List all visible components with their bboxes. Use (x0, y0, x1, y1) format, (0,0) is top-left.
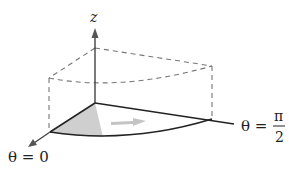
theta-zero-arrow-icon (28, 139, 37, 147)
sweep-arrow-icon (111, 118, 146, 126)
theta-end-numerator: π (274, 108, 283, 124)
diagram-canvas: z θ = 0 θ = π 2 (0, 0, 289, 172)
theta-end-denominator: 2 (275, 129, 284, 145)
z-axis (92, 28, 99, 103)
z-axis-label: z (89, 9, 98, 25)
shaded-wedge (50, 103, 103, 137)
theta-end-label-prefix: θ = (241, 117, 267, 135)
theta-zero-axis (28, 132, 50, 147)
z-axis-arrow-icon (92, 28, 99, 38)
theta-zero-label: θ = 0 (8, 148, 49, 166)
